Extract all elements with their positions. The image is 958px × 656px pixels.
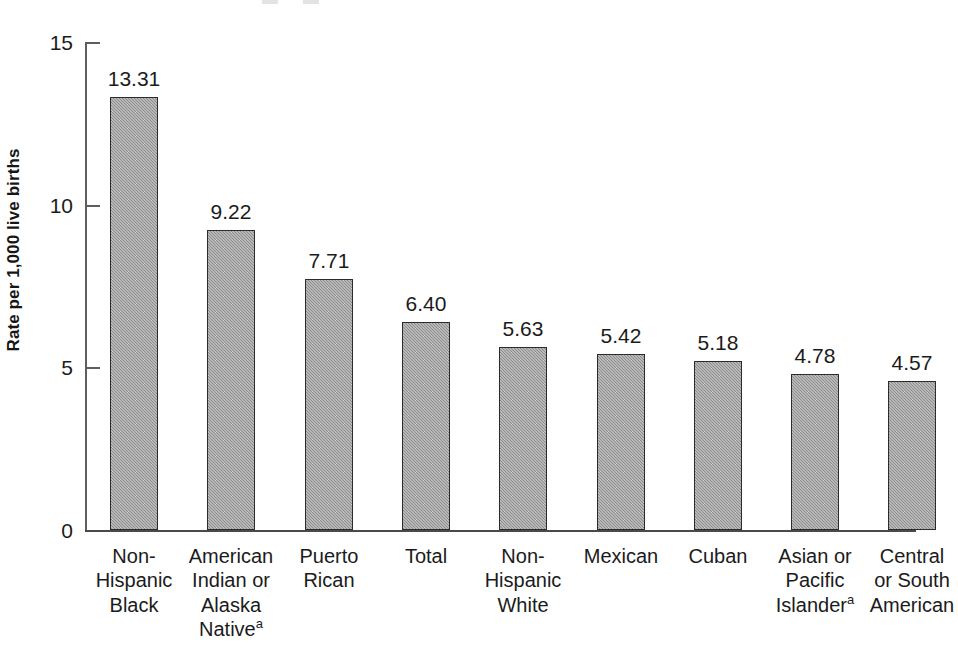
bar-value-label: 4.57	[867, 352, 957, 373]
scan-artifact	[303, 0, 319, 4]
category-label-line: Hispanic	[463, 568, 583, 592]
y-axis-tick	[87, 205, 100, 207]
bar-value-label: 5.18	[673, 332, 763, 353]
bar-value-label: 4.78	[770, 345, 860, 366]
category-label-line: Nativea	[171, 617, 291, 641]
bar	[499, 347, 547, 530]
x-axis-line	[85, 530, 916, 532]
bar	[110, 97, 158, 530]
bar	[791, 374, 839, 530]
bar-value-label: 13.31	[89, 68, 179, 89]
bar	[597, 354, 645, 530]
category-label-line: White	[463, 593, 583, 617]
bar-value-label: 5.63	[478, 318, 568, 339]
bar	[207, 230, 255, 530]
y-axis-tick-label: 0	[33, 520, 73, 541]
y-axis-tick	[87, 42, 100, 44]
bar-value-label: 6.40	[381, 293, 471, 314]
bar	[694, 361, 742, 530]
bar	[888, 381, 936, 530]
bar	[305, 279, 353, 530]
scan-artifact	[262, 0, 278, 4]
y-axis-tick-label: 5	[33, 357, 73, 378]
y-axis-tick-label: 10	[33, 195, 73, 216]
footnote-marker: a	[256, 617, 263, 632]
bar	[402, 322, 450, 530]
y-axis-line	[85, 42, 87, 532]
category-label-line: or South	[852, 568, 958, 592]
y-axis-tick	[87, 367, 100, 369]
y-axis-title: Rate per 1,000 live births	[0, 0, 28, 500]
category-label-line: Rican	[269, 568, 389, 592]
bar-value-label: 7.71	[284, 250, 374, 271]
bar-value-label: 5.42	[576, 325, 666, 346]
bar-value-label: 9.22	[186, 201, 276, 222]
category-label-line: Alaska	[171, 593, 291, 617]
y-axis-title-text: Rate per 1,000 live births	[4, 149, 24, 352]
category-label-line: Central	[852, 544, 958, 568]
category-label-line: American	[852, 593, 958, 617]
x-axis-category-label: Centralor SouthAmerican	[852, 544, 958, 617]
y-axis-tick-label: 15	[33, 32, 73, 53]
